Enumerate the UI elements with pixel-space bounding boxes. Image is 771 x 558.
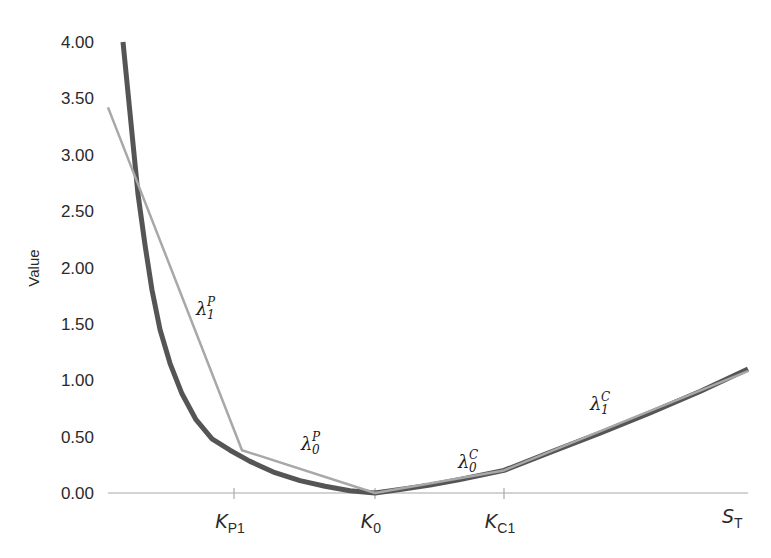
lambda-annotation: λP0 [300, 430, 321, 457]
x-tick-label: K0 [361, 510, 381, 536]
x-tick-label: KP1 [215, 510, 245, 536]
svg-text:0: 0 [469, 461, 477, 475]
lambda-annotation: λC1 [589, 390, 610, 417]
lambda-annotation: λP1 [195, 295, 216, 322]
svg-text:P: P [311, 430, 321, 444]
y-axis-title: Value [25, 249, 42, 286]
svg-text:1: 1 [207, 308, 215, 322]
svg-text:P: P [206, 295, 216, 309]
y-tick-label: 1.00 [61, 371, 94, 390]
svg-text:λ: λ [589, 393, 601, 414]
svg-text:C: C [601, 390, 610, 404]
lambda-annotation: λC0 [457, 448, 478, 475]
series-group [108, 42, 748, 493]
svg-text:1: 1 [601, 403, 609, 417]
svg-text:λ: λ [457, 451, 469, 472]
svg-text:0: 0 [312, 443, 320, 457]
svg-text:λ: λ [195, 298, 207, 319]
y-axis: 0.000.501.001.502.002.503.003.504.00 [61, 33, 94, 503]
x-tick-label: KC1 [485, 510, 516, 536]
y-tick-label: 0.00 [61, 484, 94, 503]
y-tick-label: 3.00 [61, 146, 94, 165]
convex-curve-series [123, 42, 748, 493]
y-tick-label: 2.00 [61, 259, 94, 278]
y-tick-label: 4.00 [61, 33, 94, 52]
y-tick-label: 3.50 [61, 89, 94, 108]
x-axis-end-label: ST [722, 505, 743, 531]
svg-text:λ: λ [300, 433, 312, 454]
y-tick-label: 1.50 [61, 315, 94, 334]
y-tick-label: 2.50 [61, 202, 94, 221]
x-axis: KP1K0KC1ST [108, 488, 748, 536]
svg-text:C: C [469, 448, 478, 462]
chart: 0.000.501.001.502.002.503.003.504.00 KP1… [0, 0, 771, 558]
y-tick-label: 0.50 [61, 428, 94, 447]
annotations: λP1λP0λC0λC1 [195, 295, 610, 475]
